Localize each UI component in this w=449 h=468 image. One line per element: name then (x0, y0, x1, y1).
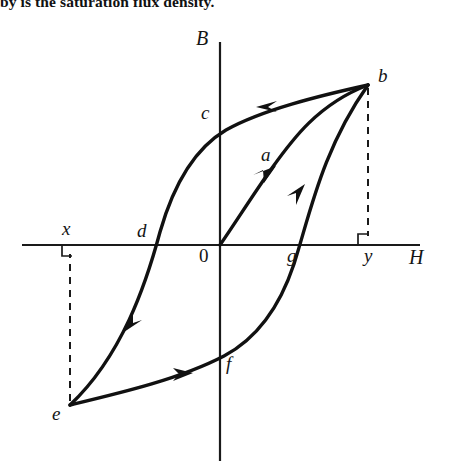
point-label-a: a (261, 145, 271, 164)
arrow-markers-group (124, 101, 305, 381)
arrow-descending-upper-icon (256, 101, 277, 112)
point-label-c: c (201, 103, 209, 122)
arrow-initial-curve-icon (253, 166, 276, 183)
right-angle-marker-y (358, 234, 368, 245)
point-label-g: g (287, 246, 297, 265)
point-label-y: y (364, 246, 372, 265)
axes-group (22, 42, 420, 461)
arrow-ascending-upper-icon (287, 184, 305, 205)
initial-magnetisation-curve (220, 85, 368, 245)
origin-label: 0 (199, 246, 209, 265)
axis-label-b: B (196, 28, 208, 48)
point-label-e: e (52, 404, 60, 423)
point-label-f: f (226, 354, 231, 373)
point-label-x: x (62, 219, 70, 238)
point-label-b: b (378, 66, 388, 85)
axis-label-h: H (409, 247, 423, 267)
point-label-d: d (137, 221, 147, 240)
